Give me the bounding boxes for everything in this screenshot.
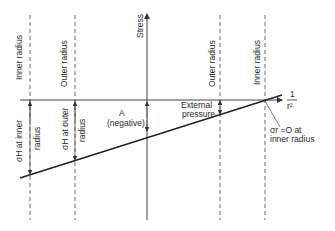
x-axis-label-denominator: r² <box>287 101 293 111</box>
sigma-r-leader <box>265 101 280 127</box>
a-label: A <box>119 108 125 118</box>
sigma-inner-label-2: radius <box>32 127 42 150</box>
external-pressure-label-2: pressure <box>182 109 215 119</box>
outer-radius-left-label: Outer radius <box>59 40 69 87</box>
stress-axis-label: Stress <box>135 14 145 38</box>
sigma-inner-label-1: σH at inner <box>14 120 24 162</box>
sigma-r-label-2: inner radius <box>270 134 314 144</box>
x-axis-label-numerator: 1 <box>290 89 295 99</box>
inner-radius-left-label: Inner radius <box>14 35 24 80</box>
outer-radius-right-label: Outer radius <box>207 40 217 87</box>
sigma-outer-label-2: radius <box>77 119 87 142</box>
a-note: (negative) <box>107 118 145 128</box>
inner-radius-right-label: Inner radius <box>252 40 262 85</box>
sigma-outer-label-1: σH at outer <box>60 107 70 150</box>
lame-stress-diagram: Inner radius Outer radius Outer radius I… <box>0 0 335 231</box>
